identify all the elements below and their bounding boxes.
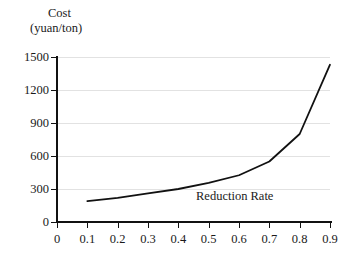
reduction-rate-annotation: Reduction Rate [196,190,273,203]
x-axis-tick [148,223,149,228]
y-tick-label: 1500 [1,51,49,64]
x-axis-tick [269,223,270,228]
y-tick-label: 600 [1,150,49,163]
x-tick-label: 0.9 [310,233,350,246]
x-axis-tick [209,223,210,228]
y-axis-spine [56,56,58,223]
y-tick-label: 1200 [1,84,49,97]
x-axis-tick [118,223,119,228]
y-tick-label: 900 [1,117,49,130]
y-axis-tick-labels: 1500 1200 900 600 300 0 [0,0,49,256]
x-axis-tick [87,223,88,228]
x-axis-tick [330,223,331,228]
x-axis-tick [239,223,240,228]
chart-figure: Cost (yuan/ton) 1500 1200 900 600 300 0 … [0,0,351,256]
y-tick-label: 300 [1,183,49,196]
y-tick-label: 0 [1,216,49,229]
plot-area [57,57,330,222]
x-axis-tick [57,223,58,228]
x-axis-spine [56,221,332,223]
x-axis-tick [178,223,179,228]
cost-curve-line [87,65,330,201]
x-axis-tick [300,223,301,228]
cost-curve [57,57,330,222]
